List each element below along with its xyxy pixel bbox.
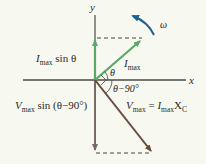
omega-label: ω xyxy=(160,20,167,30)
voltage-equation-label: Vmax = ImaxXC xyxy=(126,100,187,111)
phasor-diagram-graphics xyxy=(0,0,206,164)
phasor-diagram: y x ω Imax sin θ Imax θ θ−90° Vmax sin (… xyxy=(0,0,206,164)
x-axis-label: x xyxy=(189,75,194,86)
voltage-projection-label: Vmax sin (θ−90°) xyxy=(15,100,87,111)
theta-arc xyxy=(105,72,108,80)
theta-label: θ xyxy=(110,68,115,78)
current-projection-label: Imax sin θ xyxy=(36,53,76,64)
current-phasor-label: Imax xyxy=(124,58,141,69)
y-axis-label: y xyxy=(90,2,95,13)
theta-minus-90-label: θ−90° xyxy=(113,84,139,94)
rotation-arrow xyxy=(133,16,154,35)
theta-minus-90-arc xyxy=(106,80,112,93)
